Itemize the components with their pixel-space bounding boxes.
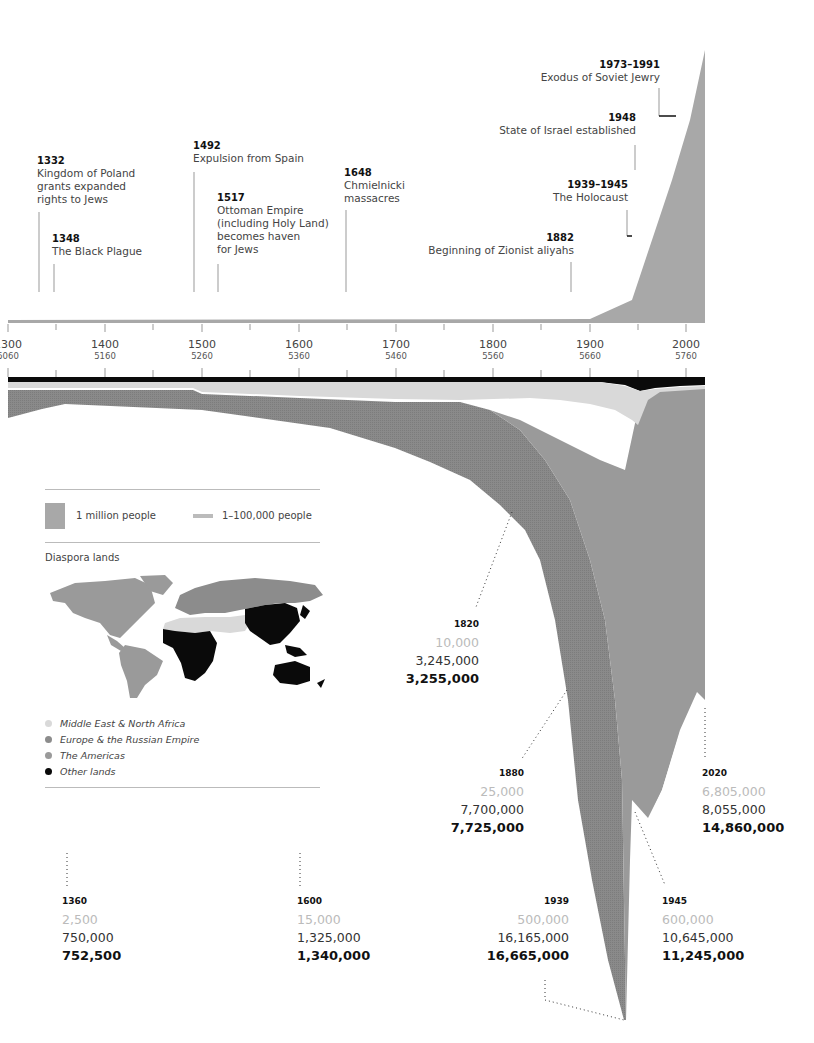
axis-tick-2000: 2000 5760	[686, 338, 711, 361]
legend-divider-bottom	[45, 787, 320, 788]
region-legend: Middle East & North Africa Europe & the …	[45, 715, 199, 779]
axis-ticks-bottom	[8, 368, 686, 377]
legend-divider-mid	[45, 542, 320, 543]
event-1492: 1492 Expulsion from Spain	[193, 140, 304, 165]
axis-tick-1600: 1600 5360	[299, 338, 324, 361]
axis-tick-1400: 1400 5160	[105, 338, 130, 361]
stat-1600: 1600 15,000 1,325,000 1,340,000	[297, 896, 370, 963]
other-swatch-icon	[45, 768, 52, 775]
axis-tick-1500: 1500 5260	[202, 338, 227, 361]
legend-divider-top	[45, 489, 320, 490]
europe-swatch-icon	[45, 736, 52, 743]
event-1517: 1517 Ottoman Empire (including Holy Land…	[217, 192, 329, 256]
axis-tick-1300: 1300 5060	[8, 338, 33, 361]
stat-2020: 2020 6,805,000 8,055,000 14,860,000	[702, 768, 784, 835]
event-1973-1991: 1973–1991 Exodus of Soviet Jewry	[541, 59, 660, 84]
axis-band	[8, 377, 705, 381]
legend-scale-large-label: 1 million people	[76, 510, 156, 521]
event-1939-1945: 1939–1945 The Holocaust	[553, 179, 628, 204]
world-map	[45, 573, 330, 703]
axis-tick-1900: 1900 5660	[590, 338, 615, 361]
event-1332: 1332 Kingdom of Poland grants expanded r…	[37, 155, 135, 206]
legend-scale-swatch-large	[45, 503, 65, 529]
event-1882: 1882 Beginning of Zionist aliyahs	[428, 232, 574, 257]
axis-tick-1700: 1700 5460	[396, 338, 421, 361]
legend-scale-small-label: 1–100,000 people	[222, 510, 312, 521]
region-legend-europe: Europe & the Russian Empire	[45, 731, 199, 747]
americas-swatch-icon	[45, 752, 52, 759]
event-1948: 1948 State of Israel established	[499, 112, 636, 137]
stat-1939: 1939 500,000 16,165,000 16,665,000	[487, 896, 569, 963]
stat-1880: 1880 25,000 7,700,000 7,725,000	[451, 768, 524, 835]
stat-1820: 1820 10,000 3,245,000 3,255,000	[406, 619, 479, 686]
region-legend-other: Other lands	[45, 763, 199, 779]
mena-swatch-icon	[45, 720, 52, 727]
legend-scale-swatch-small	[193, 514, 213, 518]
axis-tick-1800: 1800 5560	[493, 338, 518, 361]
stat-1360: 1360 2,500 750,000 752,500	[62, 896, 121, 963]
event-1648: 1648 Chmielnicki massacres	[344, 167, 405, 205]
region-legend-americas: The Americas	[45, 747, 199, 763]
axis-ticks-top	[8, 324, 686, 332]
region-legend-mena: Middle East & North Africa	[45, 715, 199, 731]
event-1348: 1348 The Black Plague	[52, 233, 142, 258]
stat-1945: 1945 600,000 10,645,000 11,245,000	[662, 896, 744, 963]
map-title: Diaspora lands	[45, 552, 120, 563]
